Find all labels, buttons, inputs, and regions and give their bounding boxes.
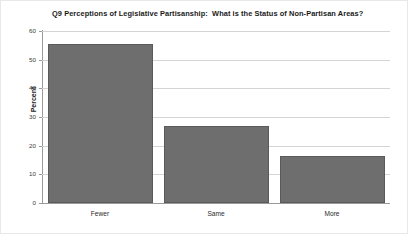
y-tick-label: 10 — [16, 171, 36, 177]
y-tick-mark — [39, 117, 42, 118]
gridline — [42, 31, 390, 32]
y-tick-mark — [39, 88, 42, 89]
y-tick-mark — [39, 31, 42, 32]
bar-more — [280, 156, 385, 203]
x-axis-line — [42, 203, 390, 204]
bar-same — [164, 126, 269, 203]
y-tick-label: 30 — [16, 114, 36, 120]
x-tick-label-fewer: Fewer — [42, 210, 158, 217]
y-tick-mark — [39, 174, 42, 175]
x-tick-label-more: More — [274, 210, 390, 217]
x-tick-label-same: Same — [158, 210, 274, 217]
y-tick-label: 0 — [16, 200, 36, 206]
y-tick-label: 50 — [16, 57, 36, 63]
y-tick-mark — [39, 60, 42, 61]
y-tick-label: 60 — [16, 28, 36, 34]
chart-title: Q9 Perceptions of Legislative Partisansh… — [52, 9, 363, 18]
y-tick-mark — [39, 146, 42, 147]
plot-area — [42, 31, 390, 203]
bar-fewer — [48, 44, 153, 203]
y-tick-label: 20 — [16, 143, 36, 149]
bar-chart: Q9 Perceptions of Legislative Partisansh… — [0, 0, 408, 234]
y-tick-label: 40 — [16, 85, 36, 91]
y-tick-mark — [39, 203, 42, 204]
